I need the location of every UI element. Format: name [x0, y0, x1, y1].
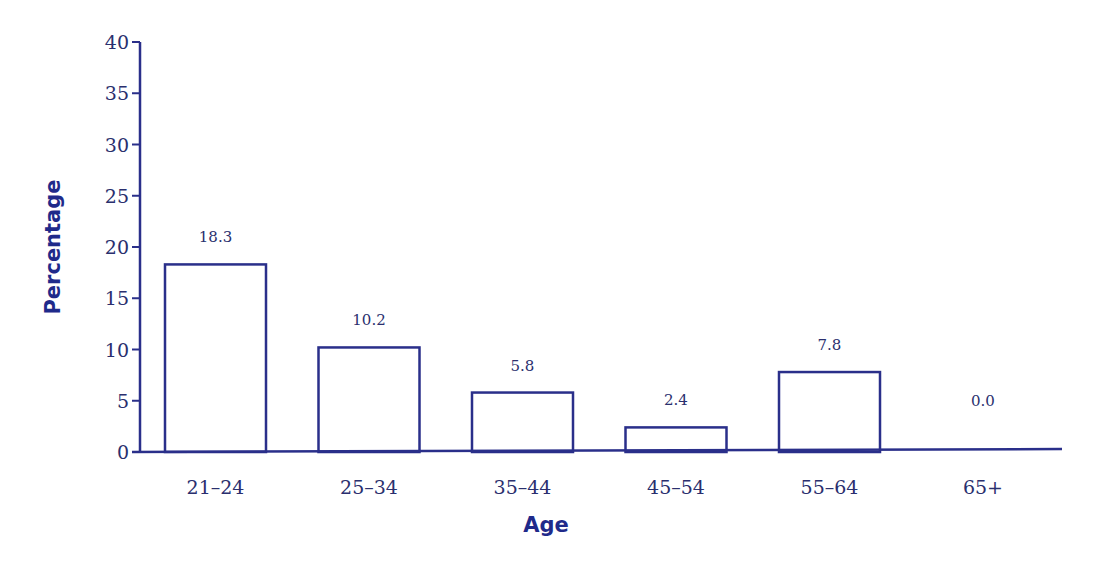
bar-value-label: 5.8: [511, 357, 535, 375]
bar-value-label: 0.0: [971, 392, 995, 410]
y-tick-label: 15: [105, 287, 129, 309]
bar-rect: [319, 347, 420, 452]
y-axis-title: Percentage: [41, 179, 65, 314]
y-tick-label: 0: [117, 441, 129, 463]
x-axis-title: Age: [523, 513, 569, 537]
bar-21–24: 18.3: [165, 228, 266, 452]
bar-25–34: 10.2: [319, 311, 420, 452]
y-tick-label: 20: [105, 236, 129, 258]
bar-value-label: 10.2: [352, 311, 385, 329]
y-tick-label: 40: [105, 31, 129, 53]
bar-rect: [472, 393, 573, 452]
bar-value-label: 18.3: [199, 228, 232, 246]
bar-35–44: 5.8: [472, 357, 573, 452]
bars: 18.310.25.82.47.80.0: [165, 228, 995, 452]
x-tick-label: 45–54: [647, 476, 705, 498]
y-tick-label: 10: [105, 339, 129, 361]
bar-chart: Percentage 0510152025303540 18.310.25.82…: [0, 0, 1106, 568]
bar-rect: [165, 264, 266, 452]
bar-rect: [779, 372, 880, 452]
x-tick-label: 55–64: [801, 476, 859, 498]
bar-55–64: 7.8: [779, 336, 880, 452]
x-axis-line: [132, 449, 1062, 452]
bar-value-label: 2.4: [664, 391, 688, 409]
x-axis: 21–2425–3435–4445–5455–6465+: [132, 449, 1062, 498]
bar-value-label: 7.8: [818, 336, 842, 354]
bar-45–54: 2.4: [626, 391, 727, 452]
y-axis: 0510152025303540: [105, 31, 140, 463]
y-tick-label: 25: [105, 185, 129, 207]
bar-rect: [626, 427, 727, 452]
x-tick-label: 25–34: [340, 476, 398, 498]
x-tick-label: 65+: [963, 476, 1003, 498]
y-tick-label: 5: [117, 390, 129, 412]
y-tick-label: 35: [105, 82, 129, 104]
bar-65+: 0.0: [971, 392, 995, 410]
x-tick-label: 35–44: [494, 476, 552, 498]
x-tick-label: 21–24: [187, 476, 245, 498]
y-tick-label: 30: [105, 134, 129, 156]
